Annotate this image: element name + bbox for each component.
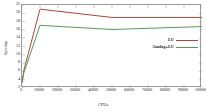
x-tick-label: 90000 bbox=[178, 88, 188, 93]
y-tick-label: 4 bbox=[18, 77, 20, 81]
x-tick-label: 40000 bbox=[88, 88, 98, 93]
legend-item: LU bbox=[120, 37, 198, 44]
x-tick-label: 60000 bbox=[124, 88, 134, 93]
chart-legend: LU Analog+LU bbox=[120, 37, 198, 51]
series-line bbox=[22, 25, 202, 83]
x-tick-label: 80000 bbox=[160, 88, 170, 93]
y-axis-title: Speedup bbox=[4, 31, 8, 65]
x-tick-label: 10000 bbox=[34, 88, 44, 93]
x-axis-tick-labels: 0100002000030000400005000060000700008000… bbox=[21, 88, 201, 96]
y-tick-label: 22 bbox=[16, 2, 20, 6]
y-tick-label: 20 bbox=[16, 10, 20, 14]
y-tick-label: 12 bbox=[16, 43, 20, 47]
x-tick-label: 100000 bbox=[195, 88, 206, 93]
y-tick-label: 6 bbox=[18, 68, 20, 72]
y-tick-label: 16 bbox=[16, 27, 20, 31]
x-tick-label: 0 bbox=[20, 88, 22, 93]
y-tick-label: 8 bbox=[18, 60, 20, 64]
legend-item: Analog+LU bbox=[120, 44, 198, 51]
x-tick-label: 30000 bbox=[70, 88, 80, 93]
legend-line-swatch bbox=[176, 47, 198, 48]
legend-label: LU bbox=[168, 38, 174, 42]
x-tick-label: 20000 bbox=[52, 88, 62, 93]
x-tick-label: 50000 bbox=[106, 88, 116, 93]
y-tick-label: 18 bbox=[16, 18, 20, 22]
chart-figure: 246810121416182022 010000200003000040000… bbox=[0, 0, 206, 112]
legend-label: Analog+LU bbox=[152, 45, 174, 49]
y-tick-label: 14 bbox=[16, 35, 20, 39]
x-axis-title: CPUs bbox=[0, 103, 206, 107]
legend-line-swatch bbox=[176, 40, 198, 41]
x-tick-label: 70000 bbox=[142, 88, 152, 93]
y-tick-label: 10 bbox=[16, 52, 20, 56]
